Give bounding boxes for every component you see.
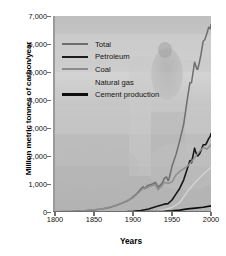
y-tick-mark <box>47 156 51 157</box>
y-tick-label: 5,000 <box>17 68 47 77</box>
legend-label: Total <box>95 40 111 49</box>
legend-swatch <box>62 68 88 70</box>
y-tick-label: 4,000 <box>17 96 47 105</box>
y-tick-label: 7,000 <box>17 12 47 21</box>
x-tick-label: 1900 <box>113 215 153 224</box>
x-tick-label: 2000 <box>191 215 226 224</box>
series-line-coal <box>55 145 211 212</box>
carbon-emissions-figure: Million metric tonnes of carbon/year 01,… <box>0 0 226 256</box>
x-tick-label: 1850 <box>74 215 114 224</box>
y-tick-mark <box>47 212 51 213</box>
legend-item: Natural gas <box>62 76 187 89</box>
legend-label: Petroleum <box>95 52 130 61</box>
legend-label: Natural gas <box>95 78 134 87</box>
x-axis-title: Years <box>48 236 214 246</box>
y-tick-label: 2,000 <box>17 152 47 161</box>
legend-label: Coal <box>95 65 111 74</box>
series-line-natural-gas <box>133 167 211 212</box>
legend-item: Petroleum <box>62 51 187 64</box>
y-tick-mark <box>47 72 51 73</box>
legend-swatch <box>62 43 88 45</box>
y-tick-mark <box>47 44 51 45</box>
y-tick-label: 3,000 <box>17 124 47 133</box>
legend-item: Cement production <box>62 88 187 101</box>
legend-label: Cement production <box>95 90 159 99</box>
x-tick-mark <box>171 212 172 216</box>
x-tick-label: 1800 <box>35 215 75 224</box>
legend-item: Total <box>62 38 187 51</box>
y-tick-mark <box>47 184 51 185</box>
x-tick-label: 1950 <box>152 215 192 224</box>
legend-swatch <box>62 56 88 59</box>
y-tick-mark <box>47 100 51 101</box>
y-tick-mark <box>47 16 51 17</box>
x-tick-mark <box>210 212 211 216</box>
y-tick-label: 1,000 <box>17 180 47 189</box>
legend-item: Coal <box>62 63 187 76</box>
chart-legend: TotalPetroleumCoalNatural gasCement prod… <box>62 38 187 101</box>
x-tick-mark <box>132 212 133 216</box>
legend-swatch <box>62 81 88 83</box>
legend-swatch <box>62 93 88 96</box>
y-tick-mark <box>47 128 51 129</box>
x-tick-mark <box>54 212 55 216</box>
series-line-petroleum <box>110 134 211 212</box>
y-tick-label: 6,000 <box>17 40 47 49</box>
x-tick-mark <box>93 212 94 216</box>
